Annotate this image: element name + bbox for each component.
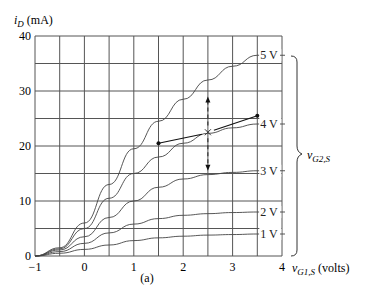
curves [35,55,259,256]
curve-3V [35,171,257,256]
x-tick-label: 2 [180,260,186,274]
grid [35,36,282,256]
curve-label: 2 V [260,205,278,219]
caption: (a) [140,271,153,285]
curve-4V [35,124,257,256]
y-axis-label: iD(mA) [14,13,53,29]
curve-label: 3 V [260,164,278,178]
brace [291,56,302,256]
curve-5V [35,55,257,256]
curve-1V [35,234,257,256]
y-tick-label: 20 [19,139,31,153]
x-tick-label: 3 [230,260,236,274]
family-label: vG2,S [307,148,331,164]
y-tick-label: 40 [19,29,31,43]
chart: 5 V4 V3 V2 V1 V−101234010203040 iD(mA) v… [0,0,371,301]
curve-label: 5 V [260,48,278,62]
y-tick-label: 10 [19,194,31,208]
arrow-up-icon [205,97,210,103]
point-start [157,141,161,145]
y-tick-label: 0 [25,249,31,263]
y-tick-label: 30 [19,84,31,98]
x-tick-label: 4 [279,260,285,274]
point-end [255,114,259,118]
x-tick-label: 0 [81,260,87,274]
curve-label: 1 V [260,227,278,241]
arrow-down-icon [205,165,210,171]
curve-2V [35,212,257,256]
curve-label: 4 V [260,117,278,131]
x-tick-label: 1 [131,260,137,274]
tick-labels: 5 V4 V3 V2 V1 V−101234010203040 [19,29,285,274]
x-axis-label: vG1,S(volts) [292,261,349,277]
